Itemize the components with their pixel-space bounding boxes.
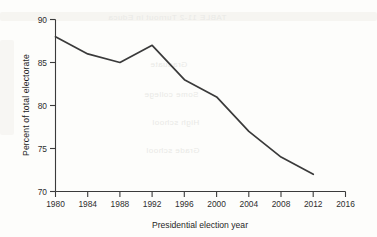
y-axis-title: Percent of total electorate	[21, 54, 31, 156]
y-tick-label-85: 85	[38, 58, 48, 68]
x-ticks	[56, 192, 346, 198]
x-tick-label-1996: 1996	[175, 199, 194, 209]
x-tick-label-1988: 1988	[111, 199, 130, 209]
x-tick-label-2000: 2000	[207, 199, 226, 209]
y-tick-label-90: 90	[38, 15, 48, 25]
x-tick-label-1992: 1992	[143, 199, 162, 209]
x-tick-label-2012: 2012	[304, 199, 323, 209]
x-axis-title: Presidential election year	[152, 220, 248, 230]
y-tick-label-80: 80	[38, 101, 48, 111]
y-axis: 70 75 80 85 90	[38, 15, 56, 197]
x-tick-label-1984: 1984	[78, 199, 97, 209]
x-tick-label-2008: 2008	[272, 199, 291, 209]
chart-figure: TABLE 11-2 Turnout in Educa Graduate Som…	[0, 0, 377, 237]
y-ticks	[50, 20, 56, 192]
chart-svg: 70 75 80 85 90 1980 1984 1988	[0, 0, 377, 237]
x-tick-label-2004: 2004	[239, 199, 258, 209]
y-tick-label-70: 70	[38, 187, 48, 197]
x-tick-label-2016: 2016	[336, 199, 355, 209]
x-axis: 1980 1984 1988 1992 1996 2000 2004 2008 …	[46, 192, 355, 210]
data-series-line	[56, 37, 314, 175]
y-tick-label-75: 75	[38, 144, 48, 154]
x-tick-label-1980: 1980	[46, 199, 65, 209]
